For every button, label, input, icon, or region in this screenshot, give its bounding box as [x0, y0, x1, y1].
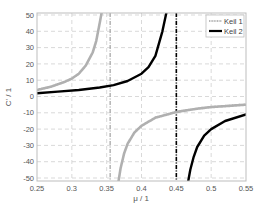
x-tick-label: 0.55: [239, 184, 254, 193]
curve-keil-1: [37, 12, 102, 90]
legend-label-keil-1: Keil 1: [224, 17, 243, 26]
asymptote-lines: [110, 13, 176, 181]
y-tick-label: -40: [23, 157, 34, 166]
grid-lines: [37, 13, 246, 181]
y-tick-label: 10: [26, 76, 34, 85]
y-tick-label: -10: [23, 108, 34, 117]
y-tick-label: 50: [26, 11, 34, 20]
legend: Keil 1 Keil 2: [206, 15, 244, 37]
y-tick-label: 0: [30, 92, 34, 101]
y-tick-label: -20: [23, 125, 34, 134]
x-tick-label: 0.45: [169, 184, 184, 193]
legend-label-keil-2: Keil 2: [224, 27, 243, 36]
y-tick-label: -30: [23, 141, 34, 150]
x-tick-label: 0.35: [99, 184, 114, 193]
curve-keil-1: [119, 105, 247, 182]
line-chart: 0.250.30.350.40.450.50.55 50403020100-10…: [0, 0, 266, 208]
x-axis-label: μ / 1: [133, 194, 149, 203]
x-tick-label: 0.5: [206, 184, 216, 193]
y-tick-label: 40: [26, 27, 34, 36]
y-tick-label: 30: [26, 43, 34, 52]
x-tick-label: 0.4: [136, 184, 146, 193]
y-axis-ticks: 50403020100-10-20-30-40-50: [23, 11, 34, 183]
x-tick-label: 0.25: [30, 184, 45, 193]
curve-keil-2: [37, 12, 167, 94]
curve-keil-2: [188, 114, 246, 181]
x-tick-label: 0.3: [67, 184, 77, 193]
y-axis-label: C' / 1: [4, 87, 13, 106]
y-tick-label: 20: [26, 60, 34, 69]
y-tick-label: -50: [23, 174, 34, 183]
x-axis-ticks: 0.250.30.350.40.450.50.55: [30, 184, 254, 193]
